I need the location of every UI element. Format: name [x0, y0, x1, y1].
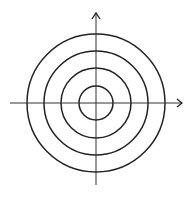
concentric-circles-diagram — [0, 0, 192, 198]
